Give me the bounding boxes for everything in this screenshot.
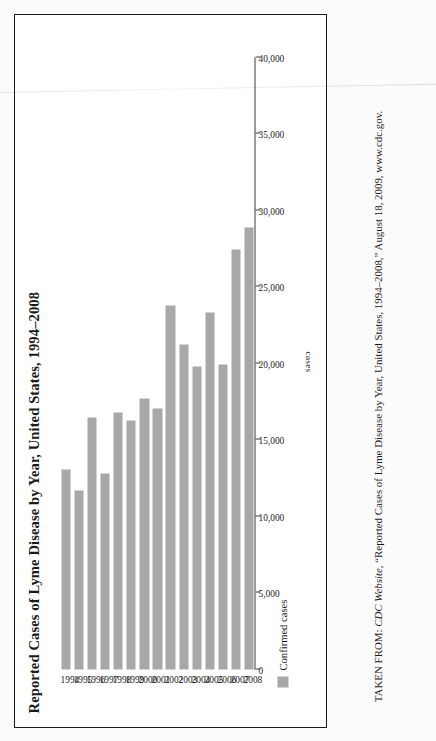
bar-row: [61, 57, 70, 669]
bar-1998: [113, 412, 122, 669]
axis-tick-label: 35,000: [258, 130, 284, 140]
bar-1996: [87, 417, 96, 669]
bar-row: [192, 57, 201, 669]
bar-row: [152, 57, 161, 669]
bar-row: [100, 57, 109, 669]
bar-row: [139, 57, 148, 669]
bar-2000: [139, 398, 148, 669]
bar-row: [113, 57, 122, 669]
category-label-2008: 2008: [243, 674, 262, 684]
bar-2003: [179, 344, 188, 669]
axis-tick-label: 25,000: [258, 283, 284, 293]
bar-row: [205, 57, 214, 669]
axis-tick-label: 40,000: [258, 53, 284, 63]
bar-1994: [61, 469, 70, 669]
legend-swatch-confirmed-cases: [277, 676, 288, 687]
bar-1995: [74, 490, 83, 669]
bar-row: [74, 57, 83, 669]
chart-legend: Confirmed cases: [277, 599, 288, 687]
bar-2006: [218, 364, 227, 669]
axis-tick-label: 20,000: [258, 359, 284, 369]
axis-tick-label: 0: [258, 665, 263, 675]
source-caption-wrap: TAKEN FROM: CDC Website, “Reported Cases…: [326, 14, 430, 726]
figure-page: Reported Cases of Lyme Disease by Year, …: [0, 0, 436, 741]
axis-tick-label: 10,000: [258, 512, 284, 522]
bar-2002: [165, 305, 174, 669]
plot-area: 05,00010,00015,00020,00025,00030,00035,0…: [59, 57, 255, 669]
bar-2001: [152, 408, 161, 669]
chart-title: Reported Cases of Lyme Disease by Year, …: [25, 29, 42, 713]
source-publisher: CDC Website,: [372, 565, 384, 626]
source-date: August 18, 2009,: [372, 175, 384, 252]
chart-rotated-canvas: Reported Cases of Lyme Disease by Year, …: [15, 15, 326, 727]
source-prefix: TAKEN FROM:: [372, 627, 384, 702]
bar-1997: [100, 473, 109, 669]
bar-row: [87, 57, 96, 669]
axis-tick-label: 15,000: [258, 436, 284, 446]
bar-2005: [205, 312, 214, 669]
source-caption: TAKEN FROM: CDC Website, “Reported Cases…: [370, 2, 386, 702]
bar-2004: [192, 366, 201, 669]
bar-2008: [244, 227, 253, 669]
value-axis-title: cases: [303, 351, 313, 372]
bar-row: [244, 57, 253, 669]
chart-frame: Reported Cases of Lyme Disease by Year, …: [14, 14, 327, 728]
bar-row: [218, 57, 227, 669]
axis-tick-label: 30,000: [258, 206, 284, 216]
legend-label-confirmed-cases: Confirmed cases: [277, 599, 288, 670]
bar-1999: [126, 420, 135, 669]
bar-row: [165, 57, 174, 669]
bar-row: [231, 57, 240, 669]
source-url: www.cdc.gov.: [372, 111, 384, 176]
axis-tick-label: 5,000: [258, 589, 279, 599]
bar-row: [179, 57, 188, 669]
bar-2007: [231, 249, 240, 669]
source-quoted-title: “Reported Cases of Lyme Disease by Year,…: [372, 253, 384, 566]
bar-row: [126, 57, 135, 669]
